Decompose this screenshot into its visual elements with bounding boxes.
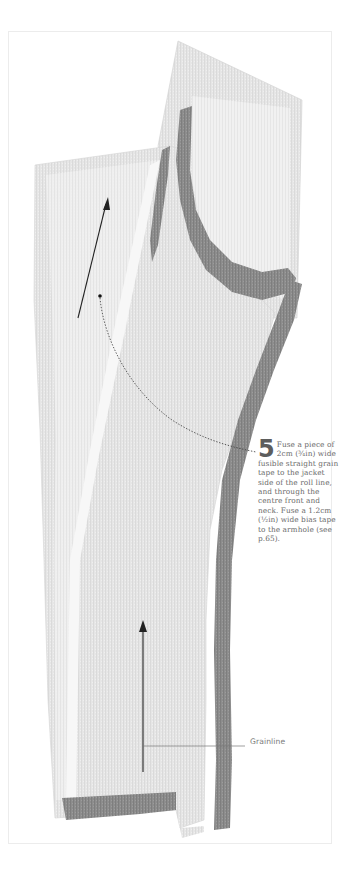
grainline-label: Grainline bbox=[250, 737, 285, 746]
step-number: 5 bbox=[258, 440, 275, 458]
jacket-front-illustration bbox=[0, 0, 352, 874]
step-instruction: 5 Fuse a piece of 2cm (¾in) wide fusible… bbox=[258, 440, 342, 543]
